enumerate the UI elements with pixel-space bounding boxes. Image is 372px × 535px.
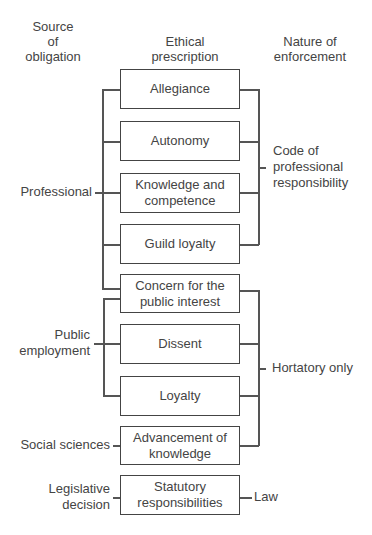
connector bbox=[240, 343, 259, 345]
connector bbox=[113, 445, 120, 447]
box-knowledge-competence: Knowledge andcompetence bbox=[120, 173, 240, 213]
box-label: Guild loyalty bbox=[145, 236, 216, 252]
header-nature-of-enforcement: Nature of enforcement bbox=[270, 34, 350, 64]
connector bbox=[240, 244, 259, 246]
source-legislative-decision: Legislative decision bbox=[10, 481, 110, 513]
connector bbox=[240, 89, 259, 91]
connector bbox=[240, 395, 259, 397]
header-ethical-prescription: Ethical prescription bbox=[140, 34, 230, 64]
enforcement-code: Code of professional responsibility bbox=[273, 143, 372, 191]
label-line: responsibility bbox=[273, 175, 372, 191]
connector bbox=[240, 290, 259, 292]
box-label: Statutory bbox=[154, 479, 206, 495]
box-label: knowledge bbox=[149, 446, 211, 462]
connector bbox=[258, 368, 266, 370]
box-guild-loyalty: Guild loyalty bbox=[120, 224, 240, 264]
label-line: decision bbox=[10, 497, 110, 513]
source-professional: Professional bbox=[10, 184, 92, 200]
bracket-professional-vertical bbox=[102, 89, 104, 289]
connector bbox=[240, 192, 259, 194]
connector bbox=[95, 192, 103, 194]
connector bbox=[102, 288, 120, 290]
box-label: public interest bbox=[140, 294, 220, 310]
connector bbox=[258, 167, 266, 169]
connector bbox=[102, 244, 120, 246]
connector bbox=[103, 395, 120, 397]
box-label: Autonomy bbox=[151, 133, 210, 149]
box-advancement-knowledge: Advancement ofknowledge bbox=[120, 426, 240, 465]
header-line: Source bbox=[22, 19, 84, 34]
box-label: Allegiance bbox=[150, 81, 210, 97]
box-label: Concern for the bbox=[135, 278, 225, 294]
header-line: Nature of bbox=[270, 34, 350, 49]
box-loyalty: Loyalty bbox=[120, 376, 240, 416]
enforcement-law: Law bbox=[254, 489, 278, 505]
header-line: enforcement bbox=[270, 49, 350, 64]
header-line: of bbox=[22, 34, 84, 49]
box-public-interest: Concern for thepublic interest bbox=[120, 274, 240, 313]
header-line: prescription bbox=[140, 49, 230, 64]
label-line: Legislative bbox=[10, 481, 110, 497]
connector bbox=[240, 141, 259, 143]
connector bbox=[102, 89, 120, 91]
header-source-of-obligation: Source of obligation bbox=[22, 19, 84, 64]
bracket-public-vertical bbox=[103, 298, 105, 396]
connector bbox=[94, 343, 120, 345]
box-label: Advancement of bbox=[133, 430, 227, 446]
connector bbox=[103, 298, 120, 300]
enforcement-hortatory: Hortatory only bbox=[272, 360, 353, 376]
connector bbox=[240, 497, 252, 499]
label-line: Public bbox=[10, 327, 90, 343]
header-line: Ethical bbox=[140, 34, 230, 49]
box-label: Dissent bbox=[158, 336, 201, 352]
box-allegiance: Allegiance bbox=[120, 69, 240, 109]
label-line: professional bbox=[273, 159, 372, 175]
header-line: obligation bbox=[22, 49, 84, 64]
label-line: employment bbox=[10, 343, 90, 359]
box-dissent: Dissent bbox=[120, 324, 240, 364]
box-label: competence bbox=[145, 193, 216, 209]
connector bbox=[102, 141, 120, 143]
box-statutory: Statutoryresponsibilities bbox=[120, 475, 240, 515]
connector bbox=[102, 192, 120, 194]
box-label: responsibilities bbox=[137, 495, 222, 511]
source-social-sciences: Social sciences bbox=[4, 437, 110, 453]
source-public-employment: Public employment bbox=[10, 327, 90, 359]
box-autonomy: Autonomy bbox=[120, 121, 240, 161]
box-label: Loyalty bbox=[159, 388, 200, 404]
connector bbox=[240, 445, 259, 447]
label-line: Code of bbox=[273, 143, 372, 159]
box-label: Knowledge and bbox=[135, 177, 225, 193]
connector bbox=[113, 497, 120, 499]
